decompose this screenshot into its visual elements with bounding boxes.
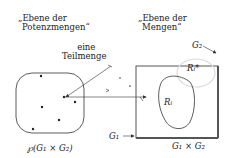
set-plane-title: „Ebene der Mengen“ — [138, 14, 187, 32]
element-dot — [40, 75, 42, 77]
subset-annotation: eine Teilmenge — [62, 43, 107, 61]
element-dot — [41, 106, 43, 108]
product-set-label: G₁ × G₂ — [172, 142, 205, 151]
g1-label: G₁ — [109, 132, 119, 141]
power-set-label: ℘(G₁ × G₂) — [27, 144, 73, 153]
power-set-shape — [16, 73, 84, 133]
element-dot — [32, 128, 34, 130]
g2-label: G₂ — [192, 41, 202, 50]
region-ri-label: Rᵢ — [164, 98, 172, 107]
element-dot — [58, 119, 60, 121]
subset-pointer-arrow — [66, 66, 111, 97]
product-set-frame — [136, 66, 218, 138]
element-dot — [74, 101, 76, 103]
region-ri-star-label: Rᵢ* — [187, 64, 199, 73]
g2-arrow — [203, 46, 216, 53]
power-set-plane-title: „Ebene der Potenzmengen“ — [18, 14, 90, 32]
